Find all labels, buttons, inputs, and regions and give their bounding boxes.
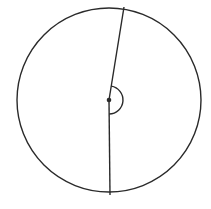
- circle-diagram: [0, 0, 211, 209]
- center-point: [107, 98, 112, 103]
- radius-top: [109, 7, 124, 100]
